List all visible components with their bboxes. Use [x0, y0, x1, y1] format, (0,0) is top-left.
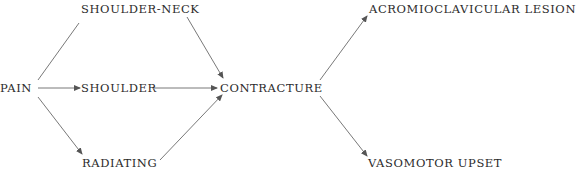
edge-radiating-contracture: [160, 95, 222, 160]
edge-contracture-vasomotor: [320, 96, 367, 156]
edge-shoulder-neck-contracture: [187, 17, 223, 78]
edge-pain-radiating: [38, 97, 82, 154]
node-shoulder-neck: SHOULDER-NECK: [81, 4, 199, 16]
node-contracture: CONTRACTURE: [220, 83, 323, 95]
edge-contracture-acromioclavicular: [320, 16, 367, 80]
node-pain: PAIN: [0, 83, 32, 95]
node-acromioclavicular-lesion: ACROMIOCLAVICULAR LESION: [369, 4, 576, 16]
edge-pain-shoulder-neck: [38, 23, 79, 80]
node-vasomotor-upset: VASOMOTOR UPSET: [368, 158, 502, 170]
node-radiating: RADIATING: [82, 158, 157, 170]
node-shoulder: SHOULDER: [81, 83, 157, 95]
